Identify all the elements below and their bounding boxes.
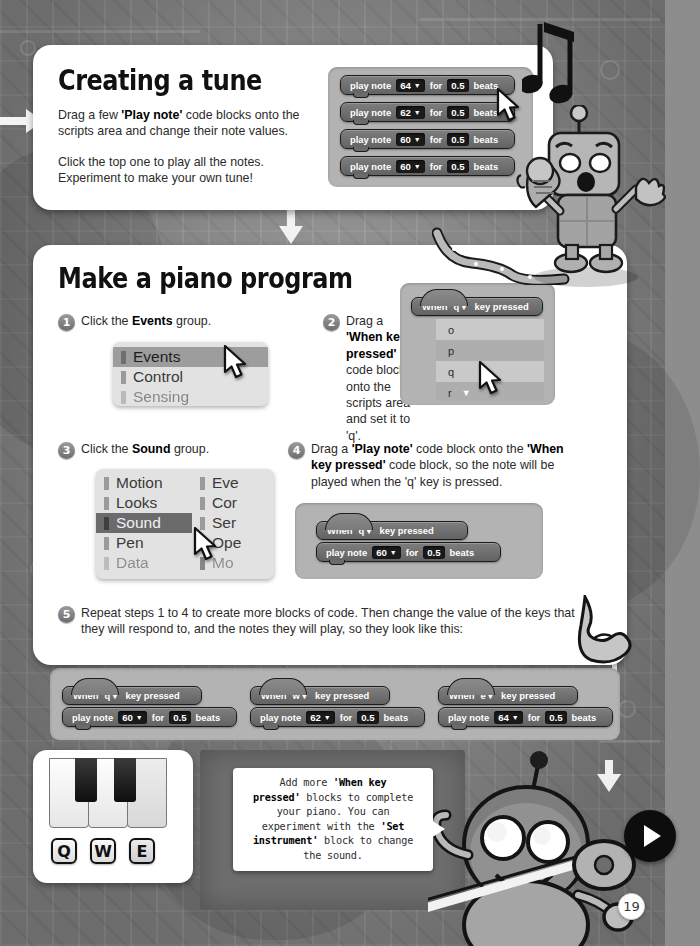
key-value-dropdown[interactable]: q▼ (454, 301, 469, 312)
s1-post: group. (173, 314, 212, 328)
beats-label: beats (474, 134, 499, 145)
bubble-line-1: Add more 'When key (240, 776, 426, 791)
step-2-script-area[interactable]: When q▼ key pressed o p q r ▼ (400, 283, 555, 405)
note-value-dropdown[interactable]: 62▼ (306, 711, 335, 724)
play-note-block[interactable]: play note 60▼ for 0.5 beats (340, 129, 515, 149)
dropdown-option-p[interactable]: p (436, 340, 544, 361)
play-note-block[interactable]: play note 64▼ for 0.5 beats (438, 707, 613, 727)
play-note-label: play note (72, 712, 113, 723)
category-item-sensing[interactable]: Sensing (113, 387, 268, 406)
chevron-down-icon: ▼ (300, 690, 309, 701)
chevron-down-icon: ▼ (512, 714, 519, 721)
block-notch (75, 725, 91, 730)
beats-value-field[interactable]: 0.5 (423, 546, 444, 559)
keycap-label: Q (57, 842, 71, 861)
play-note-block[interactable]: play note 60▼ for 0.5 beats (340, 156, 515, 176)
beats-value-field[interactable]: 0.5 (545, 711, 566, 724)
piano-keyboard[interactable] (49, 758, 167, 828)
step-3-category-list[interactable]: Motion Looks Sound Pen Data (96, 469, 274, 579)
dropdown-option-o[interactable]: o (436, 319, 544, 340)
next-page-button[interactable] (624, 810, 676, 862)
note-value-dropdown[interactable]: 64▼ (494, 711, 523, 724)
chevron-down-icon: ▼ (110, 690, 119, 701)
section1-title: Creating a tune (58, 63, 262, 97)
beats-value-field[interactable]: 0.5 (447, 133, 468, 146)
key-value-dropdown[interactable]: e▼ (481, 690, 496, 701)
mouse-cursor-icon (496, 88, 522, 122)
step-2-number: 2 (323, 314, 340, 331)
bubble-line-4: experiment with the 'Set (240, 820, 426, 835)
keycap-q[interactable]: Q (51, 838, 77, 864)
step-5: 5 Repeat steps 1 to 4 to create more blo… (58, 605, 603, 638)
note-value-dropdown[interactable]: 60▼ (118, 711, 147, 724)
key-value-dropdown[interactable]: w▼ (293, 690, 310, 701)
music-note-icon (522, 18, 584, 114)
category-swatch-icon (104, 557, 109, 570)
when-key-pressed-hat-block[interactable]: When w▼ key pressed (250, 686, 390, 705)
when-key-pressed-hat-block[interactable]: When q▼ key pressed (316, 521, 468, 540)
beats-value: 0.5 (451, 80, 464, 91)
bubble-line-3: your piano. You can (240, 805, 426, 820)
step-5-script-area[interactable]: When q▼ key pressed play note 60▼ for 0.… (50, 668, 620, 740)
bubble-l5a: block to change (318, 835, 413, 846)
play-note-label: play note (326, 547, 367, 558)
piano-black-key[interactable] (75, 758, 97, 802)
s3-post: group. (171, 442, 210, 456)
keycap-label: W (94, 842, 112, 861)
category-item-pen[interactable]: Pen (96, 533, 192, 553)
chevron-down-icon: ▼ (364, 525, 373, 536)
chevron-down-icon: ▼ (414, 82, 421, 89)
beats-value-field[interactable]: 0.5 (447, 106, 468, 119)
keycap-w[interactable]: W (90, 838, 116, 864)
block-notch (451, 725, 467, 730)
mouse-cursor-icon (193, 527, 219, 561)
note-value-dropdown[interactable]: 60▼ (396, 160, 425, 173)
note-value-dropdown[interactable]: 60▼ (396, 133, 425, 146)
category-item-sound[interactable]: Sound (96, 513, 192, 533)
block-notch (263, 725, 279, 730)
beats-value-field[interactable]: 0.5 (447, 160, 468, 173)
bubble-line-5: instrument' block to change (240, 834, 426, 849)
key-value-dropdown[interactable]: q▼ (359, 525, 374, 536)
section1-paragraph-1: Drag a few 'Play note' code blocks onto … (58, 107, 308, 140)
chevron-down-icon: ▼ (414, 136, 421, 143)
beats-value: 0.5 (451, 161, 464, 172)
category-label: Sound (116, 514, 161, 532)
section1-script-area[interactable]: play note 64▼ for 0.5 beats play note 62… (328, 67, 533, 187)
piano-black-key[interactable] (114, 758, 136, 802)
s4-mid: code block onto the (413, 442, 527, 456)
play-note-block[interactable]: play note 62▼ for 0.5 beats (250, 707, 425, 727)
s2-bold: 'When key pressed' (346, 330, 407, 360)
key-pressed-label: key pressed (126, 690, 180, 701)
play-note-block[interactable]: play note 60▼ for 0.5 beats (316, 542, 501, 562)
when-key-pressed-hat-block[interactable]: When q▼ key pressed (411, 297, 543, 316)
note-value-dropdown[interactable]: 64▼ (396, 79, 425, 92)
beats-value-field[interactable]: 0.5 (447, 79, 468, 92)
keycap-label: E (137, 842, 148, 861)
category-label: Control (133, 368, 183, 386)
category-item-events-2[interactable]: Eve (192, 473, 274, 493)
panel-creating-a-tune: Creating a tune Drag a few 'Play note' c… (33, 45, 553, 210)
step-4-script-area[interactable]: When q▼ key pressed play note 60▼ for 0.… (295, 503, 543, 579)
play-note-block[interactable]: play note 64▼ for 0.5 beats (340, 75, 515, 95)
category-item-looks[interactable]: Looks (96, 493, 192, 513)
note-value-dropdown[interactable]: 60▼ (372, 546, 401, 559)
chevron-down-icon: ▼ (414, 109, 421, 116)
category-item-control-2[interactable]: Cor (192, 493, 274, 513)
play-note-label: play note (350, 134, 391, 145)
beats-value-field[interactable]: 0.5 (169, 711, 190, 724)
piano-widget: Q W E (33, 750, 193, 883)
category-item-motion[interactable]: Motion (96, 473, 192, 493)
mouse-cursor-icon (478, 361, 504, 395)
category-item-data[interactable]: Data (96, 553, 192, 573)
when-key-pressed-hat-block[interactable]: When e▼ key pressed (438, 686, 578, 705)
bubble-l2a: blocks to complete (300, 792, 413, 803)
note-value-dropdown[interactable]: 62▼ (396, 106, 425, 119)
play-note-block[interactable]: play note 62▼ for 0.5 beats (340, 102, 515, 122)
key-value-dropdown[interactable]: q▼ (105, 690, 120, 701)
when-key-pressed-hat-block[interactable]: When q▼ key pressed (62, 686, 202, 705)
note-value: 62 (310, 712, 321, 723)
beats-value-field[interactable]: 0.5 (357, 711, 378, 724)
keycap-e[interactable]: E (129, 838, 155, 864)
play-note-block[interactable]: play note 60▼ for 0.5 beats (62, 707, 237, 727)
